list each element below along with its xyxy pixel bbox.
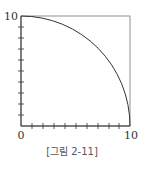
x-max-label: 10 (124, 129, 138, 142)
bounding-square (21, 16, 130, 126)
figure-caption: [그림 2-11] (0, 143, 144, 158)
quarter-circle-arc (21, 16, 130, 126)
y-max-label: 10 (4, 10, 18, 23)
origin-label: 0 (18, 129, 25, 142)
